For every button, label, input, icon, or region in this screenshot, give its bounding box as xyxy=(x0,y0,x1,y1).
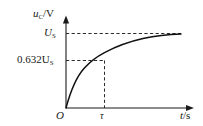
origin-label: O xyxy=(56,110,64,121)
charging-curve xyxy=(66,34,181,108)
asymptote-tick-label: US xyxy=(44,27,56,39)
asymptote-symbol: U xyxy=(44,26,52,38)
rc-charging-curve-figure: uC/V US 0.632US O τ t/s xyxy=(0,0,203,126)
y-axis-label: uC/V xyxy=(33,8,54,20)
time-constant-subscript: S xyxy=(50,59,54,66)
asymptote-subscript: S xyxy=(52,32,56,39)
tau-tick-label: τ xyxy=(100,111,104,121)
y-axis-unit: /V xyxy=(43,7,54,19)
y-axis-arrow-icon xyxy=(63,16,69,24)
x-axis-unit: /s xyxy=(183,109,190,121)
time-constant-value: 0.632U xyxy=(17,53,50,65)
x-axis-label: t/s xyxy=(180,110,190,121)
time-constant-tick-label: 0.632US xyxy=(17,54,54,66)
